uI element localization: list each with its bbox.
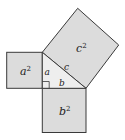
label-side-c: c <box>64 62 69 72</box>
label-side-b: b <box>59 78 65 88</box>
pythagorean-diagram: a2 b2 c2 a b c <box>0 0 125 140</box>
label-side-a: a <box>45 67 50 77</box>
